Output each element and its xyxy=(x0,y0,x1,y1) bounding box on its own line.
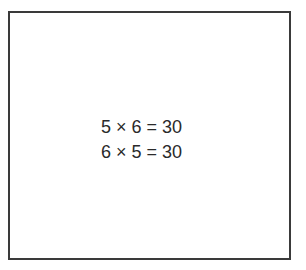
equation-line-1: 5 × 6 = 30 xyxy=(101,115,201,140)
figure-frame: 5 × 6 = 30 6 × 5 = 30 xyxy=(8,11,291,260)
equation-block: 5 × 6 = 30 6 × 5 = 30 xyxy=(101,115,201,165)
equation-line-2: 6 × 5 = 30 xyxy=(101,140,201,165)
